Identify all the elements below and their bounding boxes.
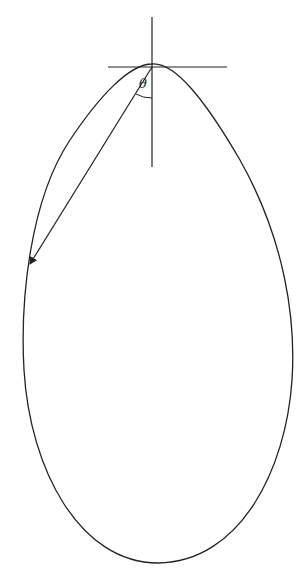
vector-arrow [30, 67, 152, 264]
egg-curve [23, 64, 293, 563]
angle-theta-label: θ [139, 76, 147, 91]
angle-arc [136, 94, 152, 98]
diagram-canvas [0, 0, 307, 583]
